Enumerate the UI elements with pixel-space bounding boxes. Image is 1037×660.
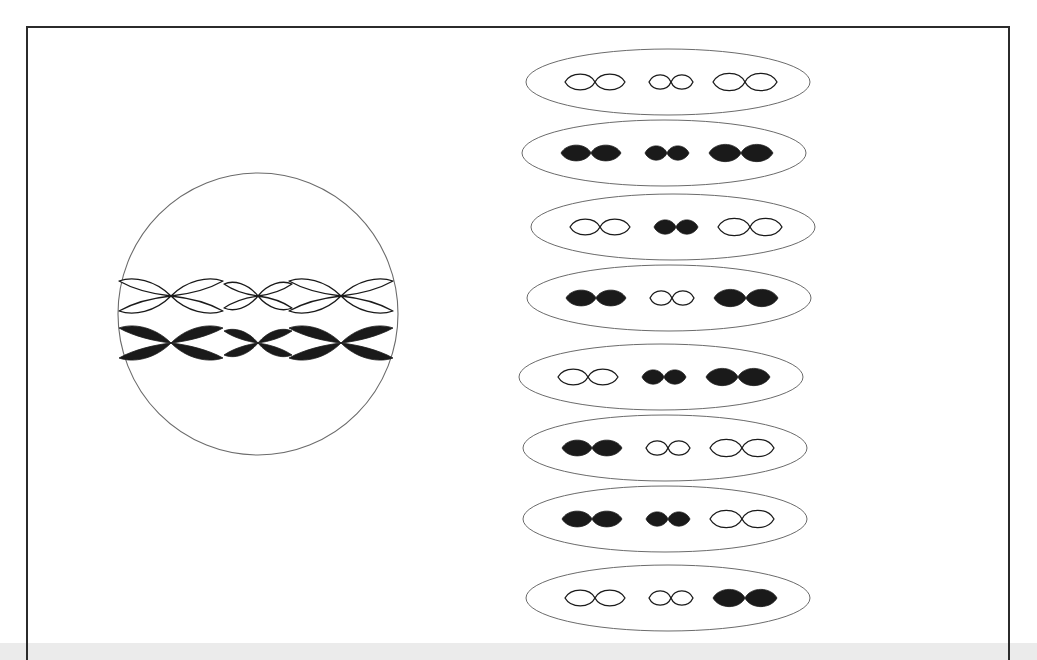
gamete-cell-5 <box>516 342 806 412</box>
gamete-cell-1 <box>523 47 813 117</box>
parent-cell-membrane <box>118 173 398 455</box>
gamete-cell-7 <box>520 484 810 554</box>
gamete-cell-3 <box>528 192 818 262</box>
gamete-cell-4 <box>524 263 814 333</box>
figure-canvas <box>0 0 1037 660</box>
gamete-cell-8 <box>523 563 813 633</box>
gamete-cell-2 <box>519 118 809 188</box>
bottom-gray-band <box>0 643 1037 660</box>
frame-left-rule-extension <box>26 643 28 660</box>
gamete-cell-6 <box>520 413 810 483</box>
frame-right-rule-extension <box>1008 643 1010 660</box>
parent-cell <box>116 171 400 457</box>
